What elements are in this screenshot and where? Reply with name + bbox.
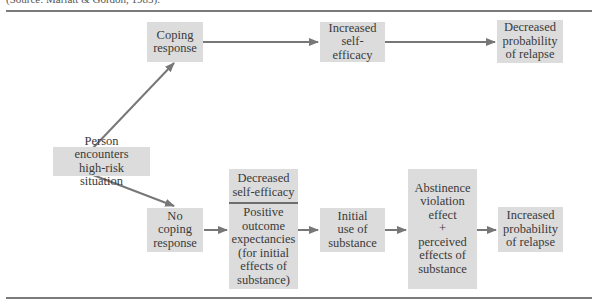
node-coping-response: Coping response <box>147 22 203 62</box>
node-line: coping <box>158 223 192 237</box>
node-line: Initial <box>338 210 368 224</box>
node-decreased-self-efficacy: Decreased self-efficacy <box>229 169 298 202</box>
node-line: use of <box>337 223 367 237</box>
node-line: + <box>439 222 446 236</box>
node-line: Decreased <box>237 172 289 186</box>
node-line: probability <box>503 223 558 237</box>
node-line: Decreased <box>504 21 556 35</box>
node-line: (for initial <box>238 247 289 261</box>
node-line: response <box>153 237 197 251</box>
node-line: violation <box>420 195 464 209</box>
node-line: outcome <box>242 220 285 234</box>
node-line: substance) <box>237 274 290 288</box>
node-initial-use-of-substance: Initial use of substance <box>320 208 385 252</box>
node-line: No <box>167 210 182 224</box>
node-line: Increased <box>329 22 377 36</box>
node-line: response <box>153 42 197 56</box>
node-no-coping-response: No coping response <box>147 208 203 252</box>
node-line: high-risk situation <box>56 162 147 189</box>
node-decreased-self-efficacy-group: Decreased self-efficacy Positive outcome… <box>229 169 298 289</box>
node-line: expectancies <box>232 233 296 247</box>
node-decreased-probability-of-relapse: Decreased probability of relapse <box>497 20 563 63</box>
node-line: effect <box>428 209 456 223</box>
node-line: effects of <box>419 249 466 263</box>
node-line: probability <box>503 35 558 49</box>
node-abstinence-violation-effect: Abstinence violation effect + perceived … <box>408 169 477 289</box>
node-line: of relapse <box>506 48 555 62</box>
node-line: effects of <box>240 260 287 274</box>
node-line: Increased <box>507 209 555 223</box>
node-line: Abstinence <box>414 182 470 196</box>
node-line: Coping <box>157 29 194 43</box>
node-increased-self-efficacy: Increased self-efficacy <box>320 22 385 62</box>
node-person-encounters-high-risk-situation: Person encounters high-risk situation <box>53 147 150 176</box>
node-line: Person encounters <box>56 135 147 162</box>
node-line: perceived <box>418 236 467 250</box>
node-line: self-efficacy <box>232 186 294 200</box>
node-line: self-efficacy <box>323 35 382 62</box>
node-line: of relapse <box>506 236 555 250</box>
node-line: substance <box>328 237 377 251</box>
node-increased-probability-of-relapse: Increased probability of relapse <box>498 207 563 252</box>
node-positive-outcome-expectancies: Positive outcome expectancies (for initi… <box>229 204 298 289</box>
node-line: Positive <box>243 206 283 220</box>
node-line: substance <box>418 263 467 277</box>
